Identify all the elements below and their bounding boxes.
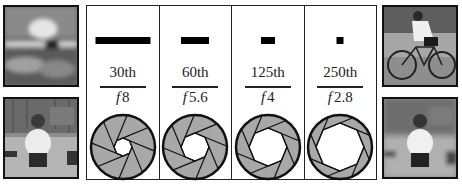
shutter-speed-label: 60th bbox=[160, 64, 232, 81]
setting-column-2: 60th f5.6 bbox=[160, 6, 233, 179]
aperture-diaphragm-icon bbox=[89, 113, 157, 181]
photo-man-crouching-deep-focus bbox=[3, 97, 79, 179]
shutter-speed-label: 30th bbox=[87, 64, 159, 81]
photo-sharp-cyclist bbox=[382, 5, 458, 87]
aperture-label: f2.8 bbox=[305, 89, 377, 106]
fraction-rule bbox=[317, 86, 363, 88]
photo-blurred-cyclist bbox=[3, 5, 79, 87]
fraction-rule bbox=[245, 86, 291, 88]
setting-column-1: 30th f8 bbox=[87, 6, 160, 179]
shutter-duration-bar bbox=[95, 37, 150, 44]
aperture-diaphragm-icon bbox=[161, 113, 229, 181]
aperture-diaphragm-icon bbox=[234, 113, 302, 181]
fraction-rule bbox=[172, 86, 218, 88]
shutter-speed-label: 125th bbox=[232, 64, 304, 81]
exposure-equivalence-board: 30th f8 60th f5.6 125th f4 250th f2.8 bbox=[86, 5, 377, 180]
aperture-label: f5.6 bbox=[160, 89, 232, 106]
photo-man-crouching-shallow-focus bbox=[382, 97, 458, 179]
aperture-label: f4 bbox=[232, 89, 304, 106]
shutter-duration-bar bbox=[261, 37, 275, 44]
shutter-speed-label: 250th bbox=[305, 64, 377, 81]
shutter-duration-bar bbox=[337, 37, 344, 44]
aperture-diaphragm-icon bbox=[306, 113, 374, 181]
setting-column-4: 250th f2.8 bbox=[305, 6, 377, 179]
shutter-duration-bar bbox=[181, 37, 209, 44]
fraction-rule bbox=[100, 86, 146, 88]
aperture-label: f8 bbox=[87, 89, 159, 106]
setting-column-3: 125th f4 bbox=[232, 6, 305, 179]
